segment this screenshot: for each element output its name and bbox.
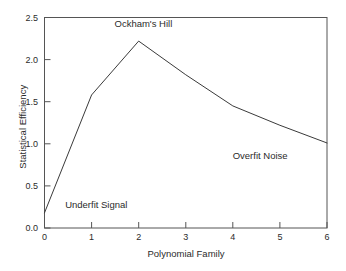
- efficiency-curve: [45, 41, 328, 213]
- x-axis-title: Polynomial Family: [44, 249, 328, 259]
- x-tick-label-0: 0: [42, 233, 47, 242]
- chart-figure: 2.5 2.0 1.5 1.0 0.5 0.0 0 1 2 3 4 5 6 St…: [0, 0, 346, 271]
- y-tick-label-0-0: 0.0: [8, 224, 38, 233]
- x-tick-label-4: 4: [230, 233, 235, 242]
- annotation-overfit-noise: Overfit Noise: [233, 151, 288, 161]
- y-tick-label-2-5: 2.5: [8, 13, 38, 22]
- x-tick-label-6: 6: [324, 233, 329, 242]
- annotation-underfit-signal: Underfit Signal: [65, 200, 127, 210]
- annotation-ockhams-hill: Ockham's Hill: [114, 19, 172, 29]
- x-tick-label-5: 5: [277, 233, 282, 242]
- x-axis-ticks: [45, 222, 328, 228]
- x-tick-label-1: 1: [89, 233, 94, 242]
- x-tick-label-2: 2: [136, 233, 141, 242]
- y-axis-ticks: [45, 18, 51, 229]
- plot-canvas: [0, 0, 346, 271]
- y-axis-title: Statistical Efficiency: [18, 47, 28, 207]
- plot-frame: [45, 18, 328, 229]
- x-tick-label-3: 3: [183, 233, 188, 242]
